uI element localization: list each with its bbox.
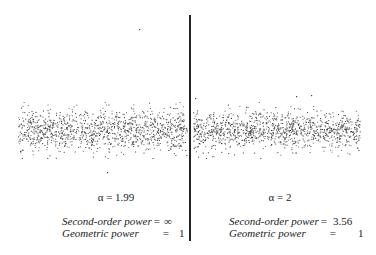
right-alpha-label: α = 2 (220, 191, 340, 203)
right-geometric-value: 1 (358, 227, 364, 239)
right-geometric-row: Geometric power = 1 (229, 227, 363, 239)
panel-divider (189, 15, 191, 241)
left-geometric-value: 1 (179, 227, 185, 239)
left-second-order-row: Second-order power = ∞ (62, 215, 184, 227)
left-stats: Second-order power = ∞ Geometric power =… (62, 215, 184, 239)
left-equals: = (163, 227, 169, 239)
left-second-order-label: Second-order power (62, 215, 152, 227)
left-geometric-label: Geometric power (62, 227, 139, 239)
right-equals: = (330, 227, 336, 239)
right-second-order-label: Second-order power (229, 215, 319, 227)
right-second-order-row: Second-order power = 3.56 (229, 215, 363, 227)
right-stats: Second-order power = 3.56 Geometric powe… (229, 215, 363, 239)
left-alpha-label: α = 1.99 (56, 191, 176, 203)
left-equals: = (154, 215, 160, 227)
right-second-order-value: 3.56 (333, 215, 352, 227)
left-geometric-row: Geometric power = 1 (62, 227, 184, 239)
right-equals: = (321, 215, 327, 227)
right-geometric-label: Geometric power (229, 227, 306, 239)
left-second-order-value: ∞ (164, 215, 172, 227)
